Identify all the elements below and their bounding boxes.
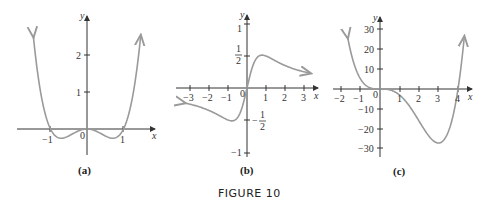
panel-label: (a) [78, 164, 91, 177]
origin-label: 0 [80, 130, 85, 141]
x-tick-label: 3 [301, 92, 306, 103]
x-axis-label: x [151, 130, 157, 141]
y-tick-label-half: 1 2 [235, 43, 242, 66]
y-tick-label: −20 [358, 124, 374, 135]
y-tick-label: 30 [364, 24, 374, 35]
x-tick-label: 1 [120, 134, 125, 145]
x-tick-label: −1 [221, 92, 232, 103]
x-tick-label: −2 [334, 93, 345, 104]
x-tick-label: 1 [263, 92, 268, 103]
figure-caption: FIGURE 10 [218, 187, 281, 200]
x-tick-label: −3 [183, 92, 194, 103]
x-tick-label: 1 [397, 93, 402, 104]
y-tick-label: 10 [364, 64, 374, 75]
y-tick-label: −30 [358, 143, 374, 154]
y-tick-label: 2 [76, 50, 81, 61]
x-axis-label: x [313, 90, 319, 101]
y-tick-label: 1 [76, 87, 81, 98]
x-tick-label: −1 [42, 134, 53, 145]
y-tick-label: 1 [237, 23, 242, 34]
svg-text:2: 2 [236, 55, 241, 66]
x-axis-label: x [467, 91, 473, 102]
svg-text:−: − [252, 115, 258, 126]
x-tick-label: 3 [435, 93, 440, 104]
y-tick-label-neg-half: − 1 2 [252, 109, 266, 132]
panel-b: y x −3 −2 −1 0 1 2 3 1 1 2 − 1 2 −1 (b) [176, 9, 319, 177]
y-axis-label: y [372, 12, 378, 23]
origin-label: 0 [240, 88, 245, 99]
panel-label: (c) [393, 165, 406, 178]
y-tick-label: 20 [364, 44, 374, 55]
y-axis-label: y [79, 10, 85, 21]
panel-label: (b) [240, 164, 254, 177]
y-tick-label: −1 [231, 147, 242, 158]
x-tick-label: 2 [416, 93, 421, 104]
origin-label: 0 [373, 89, 378, 100]
panel-a: y x −1 0 1 1 2 (a) [17, 10, 157, 177]
figure-canvas: y x −1 0 1 1 2 (a) y x −3 −2 −1 0 [0, 0, 485, 204]
svg-text:1: 1 [236, 43, 241, 54]
svg-text:2: 2 [260, 121, 265, 132]
x-tick-label: −1 [353, 93, 364, 104]
x-tick-label: 4 [455, 93, 460, 104]
y-tick-label: −10 [358, 104, 374, 115]
y-axis-label: y [239, 9, 245, 20]
svg-text:1: 1 [260, 109, 265, 120]
panel-c: y x −2 −1 0 1 2 3 4 30 20 10 −10 −20 −30… [333, 12, 473, 178]
x-tick-label: 2 [282, 92, 287, 103]
x-tick-label: −2 [202, 92, 213, 103]
